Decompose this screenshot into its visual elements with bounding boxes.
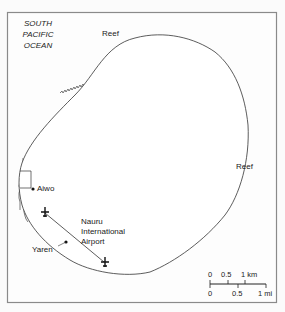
map-svg: SOUTH PACIFIC OCEAN Reef Reef Aiwo Yaren… <box>0 0 285 312</box>
scale-km-05: 0.5 <box>221 270 231 279</box>
scale-mi-05: 0.5 <box>232 289 242 298</box>
aiwo-label: Aiwo <box>37 184 55 193</box>
ocean-label-line2: PACIFIC <box>23 30 54 39</box>
ocean-label-line3: OCEAN <box>24 41 53 50</box>
airport-label-line3: Airport <box>81 237 105 246</box>
scale-km-0: 0 <box>208 270 212 279</box>
nauru-map: SOUTH PACIFIC OCEAN Reef Reef Aiwo Yaren… <box>0 0 285 312</box>
reef-label-north: Reef <box>102 29 120 38</box>
aiwo-dot <box>31 187 34 190</box>
reef-label-east: Reef <box>236 162 254 171</box>
airport-label-line1: Nauru <box>81 217 103 226</box>
scale-km-1: 1 km <box>241 270 257 279</box>
scale-mi-1: 1 mi <box>258 289 273 298</box>
yaren-label: Yaren <box>32 245 53 254</box>
ocean-label-line1: SOUTH <box>24 19 52 28</box>
scale-mi-0: 0 <box>208 289 212 298</box>
airport-label-line2: International <box>81 227 125 236</box>
